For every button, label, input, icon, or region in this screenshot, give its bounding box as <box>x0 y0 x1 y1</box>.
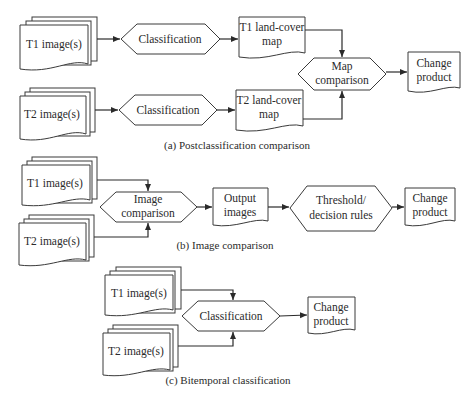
output-images-line1: Output <box>224 192 257 205</box>
change-product-doc-b: Change product <box>405 188 455 226</box>
t1-images-label: T1 image(s) <box>111 287 167 300</box>
change-product-line1: Change <box>416 57 451 70</box>
t2-map-label-line1: T2 land-cover <box>237 94 302 106</box>
t1-images-stack-a: T1 image(s) <box>20 17 97 70</box>
map-comparison-line2: comparison <box>315 74 369 87</box>
t1-images-label: T1 image(s) <box>26 38 82 51</box>
classification-label: Classification <box>199 310 262 322</box>
map-comparison-line1: Map <box>331 60 352 73</box>
output-images-line2: images <box>224 206 257 219</box>
t1-land-cover-map-doc: T1 land-cover map <box>239 17 305 58</box>
t1-map-label-line1: T1 land-cover <box>240 21 305 33</box>
caption-b: (b) Image comparison <box>176 239 274 252</box>
caption-a: (a) Postclassification comparison <box>164 139 311 152</box>
change-product-line2: product <box>412 206 448 219</box>
section-b-image-comparison: T1 image(s) T2 image(s) Image comparison… <box>19 157 455 266</box>
t2-map-label-line2: map <box>259 108 279 121</box>
section-a-postclassification: T1 image(s) Classification T1 land-cover… <box>20 17 460 152</box>
t2-images-label: T2 image(s) <box>24 108 80 121</box>
caption-c: (c) Bitemporal classification <box>165 374 291 387</box>
change-product-line1: Change <box>412 192 447 205</box>
t2-images-stack-c: T2 image(s) <box>103 325 178 376</box>
t2-images-stack-b: T2 image(s) <box>19 215 94 266</box>
change-product-line2: product <box>313 315 349 328</box>
classification-hexagon-a2: Classification <box>119 95 217 125</box>
change-product-doc-c: Change product <box>308 297 355 334</box>
t1-images-stack-c: T1 image(s) <box>105 267 181 316</box>
change-product-doc-a: Change product <box>408 52 460 92</box>
classification-hexagon-c: Classification <box>182 301 280 331</box>
change-detection-diagram: T1 image(s) Classification T1 land-cover… <box>0 0 473 400</box>
output-images-doc: Output images <box>213 188 268 226</box>
t2-images-stack-a: T2 image(s) <box>20 88 95 140</box>
classification-label: Classification <box>136 104 199 116</box>
t2-images-label: T2 image(s) <box>108 345 164 358</box>
t2-images-label: T2 image(s) <box>24 235 80 248</box>
threshold-decision-hexagon: Threshold/ decision rules <box>290 186 392 231</box>
map-comparison-hexagon: Map comparison <box>298 58 386 90</box>
change-product-line1: Change <box>313 301 348 314</box>
change-product-line2: product <box>416 71 452 84</box>
image-comparison-hexagon: Image comparison <box>100 192 197 222</box>
t1-map-label-line2: map <box>262 35 282 48</box>
image-comparison-line2: comparison <box>121 207 175 220</box>
threshold-line2: decision rules <box>309 209 373 221</box>
section-c-bitemporal: T1 image(s) T2 image(s) Classification C… <box>103 267 355 387</box>
t1-images-stack-b: T1 image(s) <box>22 157 97 206</box>
image-comparison-line1: Image <box>134 193 163 206</box>
threshold-line1: Threshold/ <box>316 194 367 206</box>
t2-land-cover-map-doc: T2 land-cover map <box>236 90 303 131</box>
classification-label: Classification <box>138 33 201 45</box>
t1-images-label: T1 image(s) <box>27 177 83 190</box>
classification-hexagon-a1: Classification <box>121 24 220 54</box>
